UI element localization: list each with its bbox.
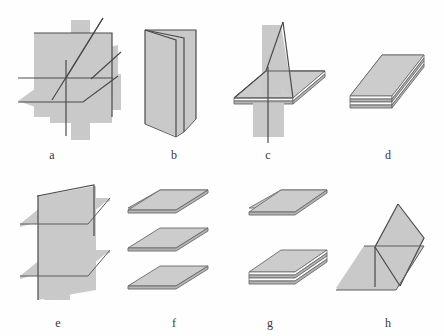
panel-label-e: e [48,317,68,329]
panel-b-graphic [145,30,196,137]
panel-c-graphic [234,22,325,143]
figure-canvas: a b c d e f g h [0,0,444,336]
panel-d-sheet-3 [350,105,392,108]
geometry-illustration [0,0,444,336]
panel-d-graphic [350,55,424,108]
panel-f-graphic [128,190,208,289]
panel-d-sheet-2 [350,99,392,102]
panel-g-graphic [249,190,327,284]
panel-label-f: f [164,317,184,329]
panel-label-g: g [260,317,280,329]
panel-label-d: d [378,149,398,161]
panel-label-b: b [164,149,184,161]
panel-label-h: h [378,317,398,329]
panel-b-leaf-left [145,30,176,136]
panel-label-a: a [42,149,62,161]
panel-e-graphic [20,185,110,300]
panel-a-right-wing [90,45,118,97]
panel-a-graphic [18,18,121,140]
panel-label-c: c [258,149,278,161]
panel-h-graphic [336,204,424,290]
